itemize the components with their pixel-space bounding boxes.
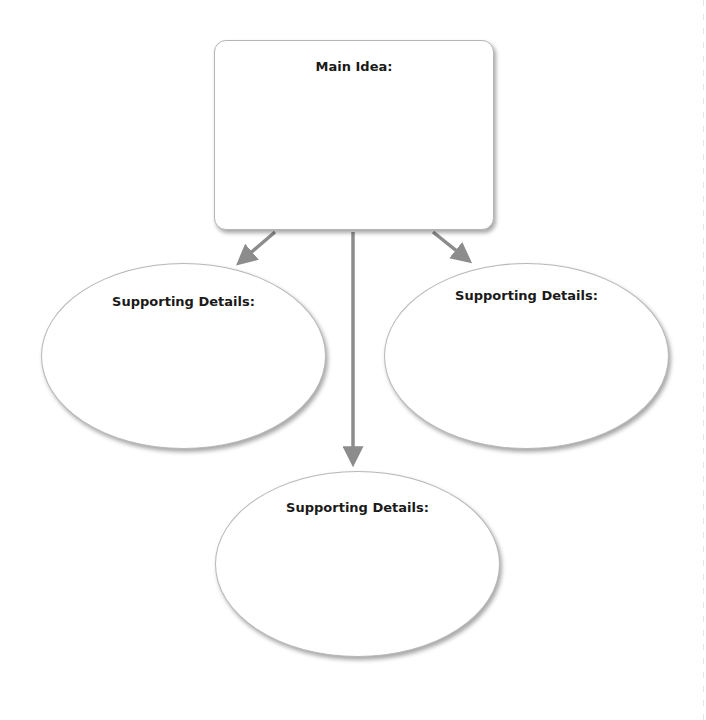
- supporting-details-right[interactable]: Supporting Details:: [384, 263, 669, 449]
- supporting-details-bottom[interactable]: Supporting Details:: [215, 471, 500, 657]
- supporting-details-left[interactable]: Supporting Details:: [41, 263, 326, 449]
- main-idea-box[interactable]: Main Idea:: [214, 40, 494, 230]
- supporting-details-label: Supporting Details:: [216, 500, 499, 515]
- supporting-details-label: Supporting Details:: [42, 294, 325, 309]
- supporting-details-label: Supporting Details:: [385, 288, 668, 303]
- arrow-to-right-details: [433, 232, 468, 260]
- arrow-to-left-details: [240, 232, 275, 262]
- main-idea-label: Main Idea:: [215, 59, 493, 74]
- page-edge-divider: [703, 0, 704, 720]
